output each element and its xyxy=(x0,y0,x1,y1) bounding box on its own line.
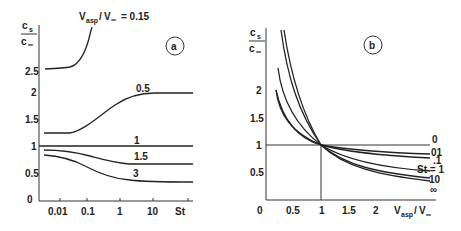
chart-a-curve-label: 3 xyxy=(133,168,139,179)
chart-a-header-annotation: V asp / V ∞ = 0.15 xyxy=(79,11,150,25)
chart-a-ytick: 2 xyxy=(31,87,37,98)
chart-a-ylabel: c s c ∞ xyxy=(21,20,37,48)
chart-a-curve-3 xyxy=(44,155,193,182)
chart-b-panel-label: b xyxy=(364,36,382,54)
svg-text:/: / xyxy=(414,205,417,216)
chart-a-curve-0.5 xyxy=(44,93,193,133)
svg-text:V: V xyxy=(79,11,86,22)
chart-b-curve-label: ∞ xyxy=(430,184,437,195)
svg-text:V: V xyxy=(419,205,426,216)
chart-a-curve-label: 1 xyxy=(134,135,140,146)
chart-a-xlabel: St xyxy=(175,206,186,217)
chart-b-ytick: 0.5 xyxy=(250,167,264,178)
svg-text:asp: asp xyxy=(401,211,413,219)
svg-text:asp: asp xyxy=(86,17,98,25)
svg-text:V: V xyxy=(104,11,111,22)
chart-a-curve-0.15 xyxy=(45,27,92,69)
chart-a-ytick: 1 xyxy=(31,141,37,152)
chart-a-xtick: 0.1 xyxy=(81,206,95,217)
chart-a-ytick: 0.5 xyxy=(25,168,39,179)
chart-b-ytick: 1 xyxy=(256,140,262,151)
chart-a-xtick: 0.01 xyxy=(48,206,68,217)
svg-text:c: c xyxy=(250,27,256,38)
chart-b-xtick: 0.5 xyxy=(286,205,300,216)
chart-b-curve-inf xyxy=(284,30,430,181)
chart-a-curve-label: 0.5 xyxy=(136,83,150,94)
svg-text:s: s xyxy=(257,33,261,40)
svg-text:c: c xyxy=(22,20,28,31)
svg-text:a: a xyxy=(171,41,177,52)
chart-b-ytick: 1.5 xyxy=(250,113,264,124)
svg-text:∞: ∞ xyxy=(111,16,116,23)
chart-b-curve-st1 xyxy=(278,68,430,171)
chart-b-curve-0.1 xyxy=(276,90,430,158)
chart-a: 2.5 2 1.5 1 0.5 0 0.01 0.1 1 10 St c s c… xyxy=(21,11,193,217)
chart-a-xtick: 10 xyxy=(147,206,159,217)
svg-text:∞: ∞ xyxy=(256,48,261,55)
svg-text:∞: ∞ xyxy=(28,41,33,48)
chart-b-curve-label: 0 xyxy=(432,134,438,145)
chart-b-xtick: 1 xyxy=(319,205,325,216)
chart-a-ytick: 2.5 xyxy=(25,66,39,77)
svg-text:∞: ∞ xyxy=(426,211,431,218)
svg-text:= 0.15: = 0.15 xyxy=(121,11,150,22)
svg-text:c: c xyxy=(249,43,255,54)
chart-b-curve-10 xyxy=(281,30,430,178)
chart-b-xtick: 1.5 xyxy=(342,205,356,216)
chart-a-ytick: 0 xyxy=(27,194,33,205)
svg-text:s: s xyxy=(29,26,33,33)
svg-text:V: V xyxy=(394,205,401,216)
chart-b-xtick: 0 xyxy=(257,205,263,216)
chart-a-ytick: 1.5 xyxy=(25,114,39,125)
chart-b-xtick: 2 xyxy=(373,205,379,216)
svg-text:/: / xyxy=(99,11,102,22)
chart-a-curve-label: 1.5 xyxy=(134,151,148,162)
chart-a-xtick: 1 xyxy=(117,206,123,217)
svg-text:b: b xyxy=(369,40,375,51)
chart-b-xlabel: V asp / V ∞ xyxy=(394,205,431,219)
chart-b-ylabel: c s c ∞ xyxy=(249,27,265,55)
chart-b-ytick: 2 xyxy=(256,85,262,96)
chart-b: 2 1.5 1 0.5 0 0.5 1 1.5 2 V asp / V ∞ c … xyxy=(249,27,444,219)
chart-a-curve-1.5 xyxy=(44,150,193,164)
svg-text:c: c xyxy=(21,36,27,47)
figure: 2.5 2 1.5 1 0.5 0 0.01 0.1 1 10 St c s c… xyxy=(0,0,461,231)
chart-a-panel-label: a xyxy=(166,37,184,55)
